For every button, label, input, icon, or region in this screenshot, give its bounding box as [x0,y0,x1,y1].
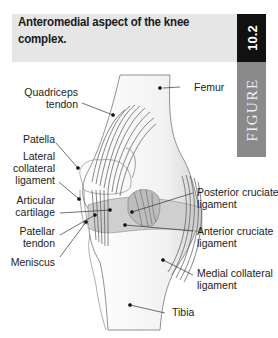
label-femur: Femur [194,81,225,93]
label-lateral-collateral-2: collateral [13,162,55,174]
label-medial-collateral-2: ligament [197,279,237,291]
label-patella: Patella [23,133,55,145]
label-posterior-cruciate-1: Posterior cruciate [197,186,278,198]
label-tibia: Tibia [172,306,195,318]
label-patellar-tendon-2: tendon [23,237,55,249]
label-lateral-collateral-3: ligament [15,174,55,186]
label-quadriceps-2: tendon [46,98,78,110]
label-quadriceps-1: Quadriceps [24,86,78,98]
label-patellar-tendon-1: Patellar [19,225,55,237]
label-meniscus: Meniscus [11,256,55,268]
label-articular-2: cartilage [15,206,55,218]
label-articular-1: Articular [16,194,55,206]
label-lateral-collateral-1: Lateral [23,150,55,162]
label-anterior-cruciate-1: Anterior cruciate [197,225,274,237]
label-anterior-cruciate-2: ligament [197,237,237,249]
label-posterior-cruciate-2: ligament [197,198,237,210]
knee-diagram: Quadriceps tendon Patella Lateral collat… [0,0,278,338]
label-medial-collateral-1: Medial collateral [197,267,273,279]
